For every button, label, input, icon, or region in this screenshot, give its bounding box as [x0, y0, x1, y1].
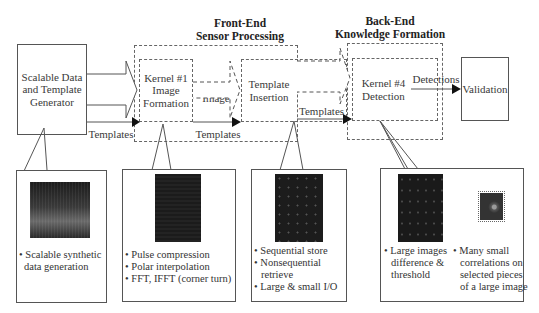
connectors [0, 0, 539, 313]
